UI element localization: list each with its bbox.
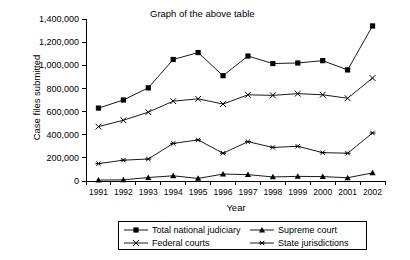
series-line bbox=[98, 133, 372, 164]
data-series-group bbox=[95, 23, 375, 182]
x-tick-label: 2001 bbox=[338, 187, 357, 197]
marker-square bbox=[96, 106, 101, 111]
marker-square bbox=[133, 227, 138, 232]
y-tick-label: 600,000 bbox=[46, 107, 79, 117]
marker-asterisk bbox=[220, 151, 226, 155]
marker-asterisk bbox=[95, 161, 101, 165]
marker-asterisk bbox=[370, 131, 376, 135]
plot-area: 0200,000400,000600,000800,0001,000,0001,… bbox=[0, 0, 410, 210]
x-tick-label: 1998 bbox=[263, 187, 282, 197]
x-tick-label: 1999 bbox=[288, 187, 307, 197]
series-federal-courts bbox=[96, 75, 376, 129]
legend-item-federal-courts[interactable]: Federal courts bbox=[123, 236, 210, 249]
y-tick-label: 200,000 bbox=[46, 153, 79, 163]
legend-marker-x-cross-icon bbox=[123, 237, 149, 249]
x-axis-ticks: 1991199219931994199519961997199819992000… bbox=[86, 181, 385, 197]
x-tick-label: 1991 bbox=[89, 187, 108, 197]
x-tick-label: 1993 bbox=[139, 187, 158, 197]
legend-item-supreme-court[interactable]: Supreme court bbox=[249, 223, 337, 236]
x-tick-label: 1996 bbox=[214, 187, 233, 197]
y-tick-label: 800,000 bbox=[46, 84, 79, 94]
marker-x-cross bbox=[370, 75, 376, 81]
y-tick-label: 400,000 bbox=[46, 130, 79, 140]
series-state-jurisdictions bbox=[95, 131, 375, 166]
marker-asterisk bbox=[345, 151, 351, 155]
marker-square bbox=[345, 67, 350, 72]
x-tick-label: 1992 bbox=[114, 187, 133, 197]
x-tick-label: 2002 bbox=[363, 187, 382, 197]
marker-asterisk bbox=[295, 144, 301, 148]
marker-square bbox=[320, 58, 325, 63]
marker-triangle bbox=[170, 173, 176, 179]
legend-marker-filled-triangle-icon bbox=[249, 224, 275, 236]
marker-asterisk bbox=[270, 145, 276, 149]
series-total-national-judiciary bbox=[96, 23, 375, 110]
marker-square bbox=[196, 50, 201, 55]
chart-page: Graph of the above table Case files subm… bbox=[0, 0, 410, 260]
legend: Total national judiciaryFederal courtsSu… bbox=[118, 221, 367, 250]
y-tick-label: 1,400,000 bbox=[39, 14, 79, 24]
marker-asterisk bbox=[195, 138, 201, 142]
marker-square bbox=[146, 85, 151, 90]
series-line bbox=[98, 173, 372, 180]
legend-item-state-jurisdictions[interactable]: State jurisdictions bbox=[249, 236, 349, 249]
y-axis-ticks: 0200,000400,000600,000800,0001,000,0001,… bbox=[39, 14, 86, 186]
marker-asterisk bbox=[320, 150, 326, 154]
legend-item-label: State jurisdictions bbox=[278, 237, 349, 249]
x-tick-label: 1994 bbox=[164, 187, 183, 197]
marker-x-cross bbox=[120, 117, 126, 123]
series-line bbox=[98, 78, 372, 127]
marker-square bbox=[270, 61, 275, 66]
marker-asterisk bbox=[170, 141, 176, 145]
legend-marker-filled-square-icon bbox=[123, 224, 149, 236]
marker-square bbox=[121, 97, 126, 102]
legend-item-label: Supreme court bbox=[278, 224, 337, 236]
y-tick-label: 0 bbox=[74, 176, 79, 186]
marker-asterisk bbox=[120, 158, 126, 162]
marker-square bbox=[171, 57, 176, 62]
legend-item-total-national-judiciary[interactable]: Total national judiciary bbox=[123, 223, 241, 236]
marker-asterisk bbox=[245, 139, 251, 143]
x-tick-label: 1995 bbox=[189, 187, 208, 197]
marker-square bbox=[220, 73, 225, 78]
marker-triangle bbox=[369, 170, 375, 176]
marker-square bbox=[245, 53, 250, 58]
marker-asterisk bbox=[145, 157, 151, 161]
marker-x-cross bbox=[145, 109, 151, 115]
y-tick-label: 1,200,000 bbox=[39, 37, 79, 47]
legend-item-label: Total national judiciary bbox=[152, 224, 241, 236]
y-tick-label: 1,000,000 bbox=[39, 60, 79, 70]
legend-item-label: Federal courts bbox=[152, 237, 210, 249]
marker-square bbox=[370, 23, 375, 28]
marker-x-cross bbox=[96, 124, 102, 130]
x-tick-label: 2000 bbox=[313, 187, 332, 197]
legend-marker-asterisk-icon bbox=[249, 237, 275, 249]
x-tick-label: 1997 bbox=[238, 187, 257, 197]
marker-asterisk bbox=[259, 240, 265, 244]
marker-square bbox=[295, 60, 300, 65]
